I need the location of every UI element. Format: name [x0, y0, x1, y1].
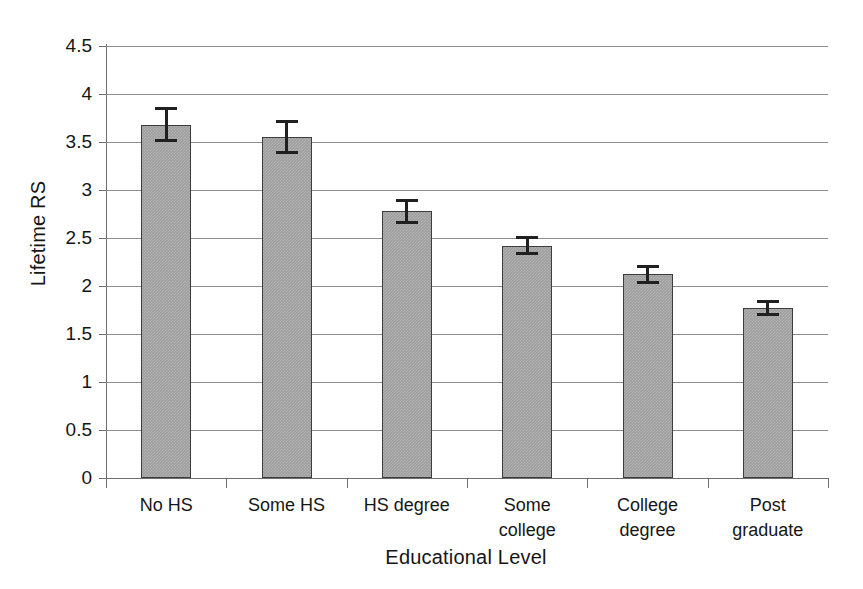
y-axis-tick-label: 4 [32, 84, 92, 103]
error-bar-cap-bottom [637, 281, 659, 284]
x-axis-category-label-line: Post [708, 493, 828, 518]
gridline [106, 190, 828, 191]
x-axis-category-label-line: degree [587, 518, 707, 543]
x-axis-category-label-line: College [587, 493, 707, 518]
gridline [106, 430, 828, 431]
error-bar-cap-top [155, 107, 177, 110]
error-bar [757, 300, 779, 315]
bar [382, 211, 432, 478]
error-bar-cap-bottom [757, 313, 779, 316]
x-axis-category-label: Some HS [226, 493, 346, 518]
y-axis-tick-label: 3 [32, 180, 92, 199]
y-axis-tick-label: 2.5 [32, 228, 92, 247]
bar [262, 137, 312, 478]
x-axis-tick [226, 479, 227, 488]
x-axis-category-label-line: college [467, 518, 587, 543]
y-axis-tick-label: 4.5 [32, 36, 92, 55]
x-axis-tick [347, 479, 348, 488]
error-bar-stem [165, 107, 168, 142]
error-bar-cap-bottom [516, 252, 538, 255]
x-axis-category-label: Somecollege [467, 493, 587, 543]
y-axis-tick-label: 1.5 [32, 324, 92, 343]
bar [743, 308, 793, 478]
gridline [106, 142, 828, 143]
x-axis-tick [587, 479, 588, 488]
x-axis-category-label-line: Some HS [226, 493, 346, 518]
x-axis-category-label: No HS [106, 493, 226, 518]
y-axis-tick-label: 2 [32, 276, 92, 295]
error-bar-stem [285, 120, 288, 155]
x-axis-tick [828, 479, 829, 488]
error-bar-cap-top [516, 236, 538, 239]
gridline [106, 238, 828, 239]
gridline [106, 334, 828, 335]
y-axis-tick-label: 1 [32, 372, 92, 391]
error-bar [276, 120, 298, 155]
gridline [106, 286, 828, 287]
x-axis-category-label: Collegedegree [587, 493, 707, 543]
error-bar-cap-bottom [276, 151, 298, 154]
x-axis-category-label-line: Some [467, 493, 587, 518]
y-axis-tick-label: 3.5 [32, 132, 92, 151]
error-bar-cap-bottom [396, 221, 418, 224]
gridline [106, 382, 828, 383]
x-axis-tick [708, 479, 709, 488]
gridline [106, 94, 828, 95]
error-bar-cap-top [757, 300, 779, 303]
bar [502, 246, 552, 478]
bar [623, 274, 673, 478]
x-axis-category-label-line: graduate [708, 518, 828, 543]
error-bar-cap-top [276, 120, 298, 123]
error-bar-cap-top [396, 199, 418, 202]
x-axis-category-label: Postgraduate [708, 493, 828, 543]
x-axis-category-label-line: No HS [106, 493, 226, 518]
bar [141, 125, 191, 478]
gridline [106, 46, 828, 47]
x-axis-category-label-line: HS degree [347, 493, 467, 518]
y-axis-tick-label: 0 [32, 468, 92, 487]
x-axis-tick [106, 479, 107, 488]
x-axis-tick [467, 479, 468, 488]
x-axis-category-label: HS degree [347, 493, 467, 518]
error-bar [516, 236, 538, 255]
error-bar [396, 199, 418, 224]
error-bar [155, 107, 177, 142]
y-axis-tick-label: 0.5 [32, 420, 92, 439]
plot-area [106, 46, 828, 478]
bar-chart: Lifetime RS 4.543.532.521.510.50 No HSSo… [0, 0, 863, 589]
error-bar-cap-top [637, 265, 659, 268]
error-bar-cap-bottom [155, 139, 177, 142]
error-bar [637, 265, 659, 284]
x-axis-title: Educational Level [106, 546, 826, 569]
